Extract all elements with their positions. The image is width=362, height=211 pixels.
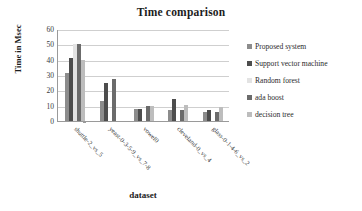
- x-axis-tick: cleveland-0_vs_4: [176, 125, 213, 163]
- x-axis-tick: shuttle-2_vs_5: [73, 125, 105, 158]
- legend-swatch-icon: [247, 95, 252, 100]
- legend-label: Proposed system: [255, 42, 306, 51]
- legend-swatch-icon: [247, 78, 252, 83]
- x-axis-tick: glass-0-1-4-6_vs_2: [211, 125, 251, 166]
- legend-swatch-icon: [247, 44, 252, 49]
- legend-label: Support vector machine: [255, 59, 328, 68]
- x-axis-tick: vowel0: [142, 125, 161, 144]
- legend-swatch-icon: [247, 112, 252, 117]
- legend-label: decision tree: [255, 110, 294, 119]
- chart-legend: Proposed systemSupport vector machineRan…: [247, 38, 359, 123]
- x-axis-title: dataset: [57, 190, 229, 200]
- legend-swatch-icon: [247, 61, 252, 66]
- legend-item[interactable]: ada boost: [247, 89, 359, 106]
- legend-item[interactable]: Proposed system: [247, 38, 359, 55]
- legend-label: Random forest: [255, 76, 300, 85]
- chart-container: Time comparison Time in Msec 60504030201…: [0, 0, 362, 211]
- legend-item[interactable]: Support vector machine: [247, 55, 359, 72]
- legend-item[interactable]: decision tree: [247, 106, 359, 123]
- legend-label: ada boost: [255, 93, 284, 102]
- legend-item[interactable]: Random forest: [247, 72, 359, 89]
